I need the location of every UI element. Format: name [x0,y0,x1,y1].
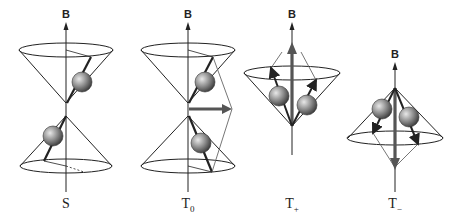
state-label-main: T [285,196,294,211]
spin-states-diagram [0,0,459,221]
b-field-label-tminus: B [391,48,399,60]
state-label-main: S [62,196,70,211]
state-label-t0: T0 [181,196,194,214]
b-field-label-tplus: B [288,8,296,20]
b-field-label-t0: B [184,8,192,20]
state-label-sub: + [294,204,299,214]
state-label-main: T [181,196,190,211]
b-field-label-s: B [62,8,70,20]
triplet-tplus-state [244,22,340,155]
state-label-s: S [62,196,70,214]
state-label-sub: − [397,204,402,214]
state-label-sub: 0 [190,204,195,214]
state-label-tplus: T+ [285,196,299,214]
triplet-t0-state [141,22,235,192]
singlet-state [19,22,113,192]
state-label-tminus: T− [388,196,402,214]
state-label-main: T [388,196,397,211]
triplet-tminus-state [347,62,443,192]
